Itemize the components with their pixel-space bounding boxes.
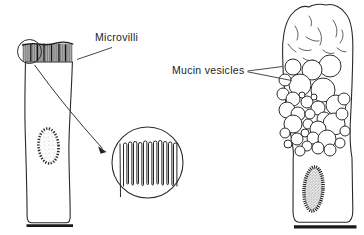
microvilli-label: Microvilli xyxy=(95,32,138,43)
cell-diagram-artwork xyxy=(0,0,364,235)
microvilli-brush xyxy=(23,42,73,62)
magnified-membrane-line xyxy=(120,144,121,198)
goblet-cell xyxy=(277,4,357,227)
microvilli-pointer-line xyxy=(77,48,112,60)
magnification-arrow-head-icon xyxy=(98,146,106,154)
diagram-canvas: Microvilli Mucin vesicles xyxy=(0,0,364,235)
mucin-vesicles-label: Mucin vesicles xyxy=(172,65,244,76)
mucin-pointer-line-upper xyxy=(248,67,283,72)
columnar-cell xyxy=(18,40,74,226)
mucin-vesicle-pointed-upper xyxy=(285,59,301,75)
mucin-vesicles-cluster xyxy=(277,55,350,156)
